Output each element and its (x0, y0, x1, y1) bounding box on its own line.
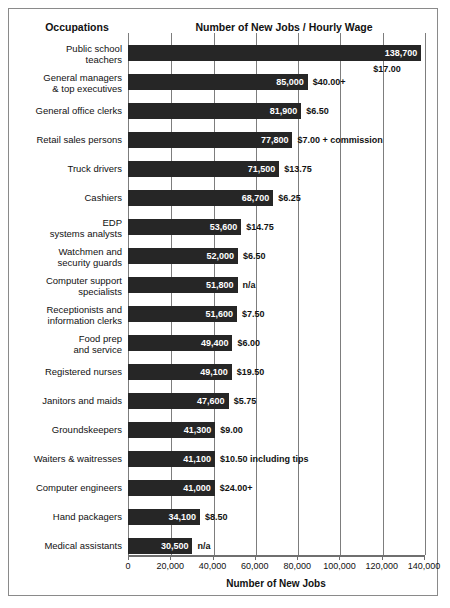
bar-value-label: 52,000 (178, 248, 238, 264)
occupation-label: General managers& top executives (6, 73, 122, 94)
occupation-label-line: Groundskeepers (6, 425, 122, 436)
occupation-label-line: Computer support (6, 276, 122, 287)
bar-value-label: 41,100 (155, 451, 215, 467)
occupation-label-line: Computer engineers (6, 483, 122, 494)
bar-value-label: 71,500 (219, 161, 279, 177)
occupation-label-line: and service (6, 345, 122, 356)
occupation-label: Retail sales persons (6, 135, 122, 146)
occupation-label-line: Receptionists and (6, 305, 122, 316)
occupation-label-line: Waiters & waitresses (6, 454, 122, 465)
gridline (340, 33, 341, 555)
bar-value-label: 53,600 (181, 219, 241, 235)
occupation-label-line: General managers (6, 73, 122, 84)
occupation-label-line: Retail sales persons (6, 135, 122, 146)
occupation-label: Computer engineers (6, 483, 122, 494)
occupation-label: Registered nurses (6, 367, 122, 378)
x-axis-tick (339, 555, 340, 560)
hourly-wage-label: $8.50 (205, 509, 228, 525)
bar-value-label: 49,400 (172, 335, 232, 351)
occupation-label-line: Truck drivers (6, 164, 122, 175)
bar-value-label: 68,700 (213, 190, 273, 206)
hourly-wage-label: $13.75 (284, 161, 312, 177)
occupation-label: Groundskeepers (6, 425, 122, 436)
gridline (383, 33, 384, 555)
x-axis-tick-label: 140,000 (394, 561, 450, 571)
x-axis-tick (382, 555, 383, 560)
hourly-wage-label: $9.00 (220, 422, 243, 438)
occupation-label: General office clerks (6, 106, 122, 117)
occupation-label-line: specialists (6, 287, 122, 298)
occupation-label-line: information clerks (6, 316, 122, 327)
hourly-wage-label: $6.25 (278, 190, 301, 206)
bar-value-label: 30,500 (132, 538, 192, 554)
occupation-label-line: Janitors and maids (6, 396, 122, 407)
gridline (425, 33, 426, 555)
x-axis-title: Number of New Jobs (128, 578, 424, 589)
occupation-label-line: Registered nurses (6, 367, 122, 378)
occupation-label-line: systems analysts (6, 229, 122, 240)
occupation-label: Watchmen andsecurity guards (6, 247, 122, 268)
hourly-wage-label: $5.75 (234, 393, 257, 409)
x-axis-tick (255, 555, 256, 560)
hourly-wage-label: $40.00+ (313, 74, 346, 90)
hourly-wage-label: $10.50 including tips (220, 451, 309, 467)
occupation-label: Food prepand service (6, 334, 122, 355)
occupation-label-line: Public school (6, 44, 122, 55)
occupation-label-line: teachers (6, 55, 122, 66)
occupation-label-line: Food prep (6, 334, 122, 345)
bar-value-label: 77,800 (232, 132, 292, 148)
bar-value-label: 41,000 (155, 480, 215, 496)
occupation-label-line: EDP (6, 218, 122, 229)
hourly-wage-label: $7.00 + commission (297, 132, 382, 148)
occupation-label-line: Cashiers (6, 193, 122, 204)
occupation-label: Cashiers (6, 193, 122, 204)
hourly-wage-label: $14.75 (246, 219, 274, 235)
x-axis-tick (424, 555, 425, 560)
x-axis-tick (170, 555, 171, 560)
occupation-label: Medical assistants (6, 541, 122, 552)
occupation-label: Public schoolteachers (6, 44, 122, 65)
occupation-label-line: General office clerks (6, 106, 122, 117)
occupation-label: Receptionists andinformation clerks (6, 305, 122, 326)
occupation-label-line: & top executives (6, 84, 122, 95)
occupation-label: EDPsystems analysts (6, 218, 122, 239)
occupation-label: Waiters & waitresses (6, 454, 122, 465)
bar-value-label: 51,600 (177, 306, 237, 322)
x-axis-line (128, 555, 425, 557)
occupation-label: Janitors and maids (6, 396, 122, 407)
bar-value-label: 51,800 (178, 277, 238, 293)
hourly-wage-label: $6.00 (237, 335, 260, 351)
bar-value-label: 47,600 (169, 393, 229, 409)
occupation-label: Computer supportspecialists (6, 276, 122, 297)
x-axis-tick (297, 555, 298, 560)
occupation-label-line: Hand packagers (6, 512, 122, 523)
hourly-wage-label: $6.50 (243, 248, 266, 264)
bar-value-label: 138,700 (361, 45, 421, 61)
occupation-label-line: Watchmen and (6, 247, 122, 258)
bar-value-label: 34,100 (140, 509, 200, 525)
x-axis-tick (128, 555, 129, 560)
hourly-wage-label: $17.00 (373, 61, 401, 77)
hourly-wage-label: n/a (243, 277, 256, 293)
hourly-wage-label: n/a (197, 538, 210, 554)
occupation-label-line: security guards (6, 258, 122, 269)
occupation-label: Hand packagers (6, 512, 122, 523)
hourly-wage-label: $7.50 (242, 306, 265, 322)
chart-title: Number of New Jobs / Hourly Wage (129, 21, 439, 33)
occupation-label-line: Medical assistants (6, 541, 122, 552)
occupations-column-header: Occupations (19, 21, 135, 33)
bar-value-label: 81,900 (241, 103, 301, 119)
bar-value-label: 85,000 (248, 74, 308, 90)
hourly-wage-label: $24.00+ (220, 480, 253, 496)
x-axis-tick (213, 555, 214, 560)
occupation-label: Truck drivers (6, 164, 122, 175)
bar-value-label: 49,100 (172, 364, 232, 380)
bar-value-label: 41,300 (155, 422, 215, 438)
hourly-wage-label: $6.50 (306, 103, 329, 119)
hourly-wage-label: $19.50 (237, 364, 265, 380)
